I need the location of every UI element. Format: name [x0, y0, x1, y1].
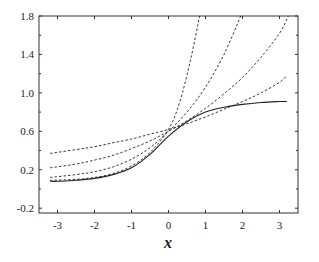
x-tick-label: -1 [127, 219, 136, 231]
y-tick-label: 1.0 [20, 87, 34, 99]
y-tick-label: 1.8 [20, 10, 34, 22]
x-tick-label: -3 [53, 219, 63, 231]
series-line-approx-3 [50, 16, 288, 168]
x-tick-label: -2 [90, 219, 99, 231]
series-line-approx-2 [50, 16, 241, 177]
line-chart: -3-2-10123-0.20.20.61.01.41.8 x [0, 0, 319, 262]
series-line-approx-1 [50, 16, 200, 180]
y-tick-label: 0.2 [20, 164, 34, 176]
series-line-approx-4 [50, 76, 287, 154]
axis-ticks: -3-2-10123-0.20.20.61.01.41.8 [17, 10, 298, 231]
y-tick-label: 0.6 [20, 125, 34, 137]
x-tick-label: 1 [203, 219, 209, 231]
series-line-exact [50, 101, 287, 181]
x-tick-label: 2 [240, 219, 246, 231]
x-axis-label: x [163, 234, 172, 251]
x-tick-label: 0 [166, 219, 172, 231]
series-group [50, 16, 288, 181]
plot-frame [39, 16, 298, 213]
y-tick-label: -0.2 [17, 202, 34, 214]
x-tick-label: 3 [277, 219, 283, 231]
y-tick-label: 1.4 [20, 48, 34, 60]
